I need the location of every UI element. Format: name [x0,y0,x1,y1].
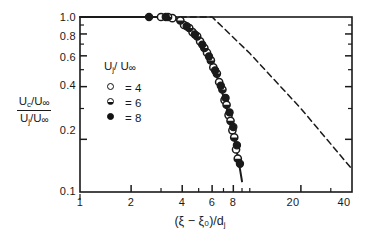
filled-circle-marker [191,31,198,38]
x-tick-label: 40 [334,196,354,208]
filled-circle-marker [145,13,152,20]
open-circle-marker-icon [106,82,120,93]
filled-circle-marker [183,23,190,30]
y-num-sub: c [27,100,31,109]
legend-title-mid: / U [114,60,129,72]
y-axis-label-numerator: Uc/U∞ [17,95,51,111]
y-den-sub: j [28,117,30,126]
filled-circle-marker [226,109,233,116]
legend-sep: = [125,97,132,109]
y-axis-label: Uc/U∞ Uj/U∞ [2,95,66,126]
legend-sep: = [125,112,132,124]
y-axis-label-denominator: Uj/U∞ [18,111,50,126]
filled-circle-marker [199,41,206,48]
legend-item-label: = 4 [125,82,141,94]
infinity-symbol: ∞ [129,62,136,73]
legend-item: = 8 [106,110,141,125]
infinity-symbol: ∞ [41,114,48,125]
filled-circle-marker [236,160,243,167]
legend-value: 4 [135,82,141,94]
x-tick-label: 1 [70,196,90,208]
filled-circle-marker [233,142,240,149]
legend-item-label: = 8 [125,112,141,124]
x-tick-label: 6 [202,196,222,208]
legend-title: Uj/ U∞ [104,60,141,74]
y-tick-label: 0.4 [44,79,76,91]
infinity-symbol: ∞ [43,97,50,108]
x-tick-label: 8 [223,196,243,208]
x-tick-label: 2 [121,196,141,208]
figure-root: 1.0 0.8 0.6 0.4 0.2 0.1 1 2 4 6 8 20 40 … [0,0,370,246]
filled-circle-marker [217,82,224,89]
y-num-uinf: U [34,95,42,107]
x-tick-label: 20 [283,196,303,208]
y-num-u: U [19,95,27,107]
x-axis-label-text: (ξ − ξ₀)/d [174,214,223,228]
half-circle-marker-icon [106,97,120,108]
y-tick-label: 0.6 [44,51,76,63]
y-tick-label: 0.8 [44,30,76,42]
filled-circle-marker [222,94,229,101]
legend-item: = 4 [106,80,141,95]
y-den-u: U [20,112,28,124]
legend-value: 6 [135,97,141,109]
filled-circle-marker [205,53,212,60]
x-axis-label: (ξ − ξ₀)/dj [120,214,280,229]
filled-circle-marker [212,67,219,74]
x-tick-label: 4 [172,196,192,208]
legend-sep: = [125,82,132,94]
legend-value: 8 [135,112,141,124]
y-tick-label: 1.0 [44,11,76,23]
filled-circle-marker [162,13,169,20]
filled-circle-marker [230,123,237,130]
filled-circle-marker-icon [106,112,120,123]
legend-item-label: = 6 [125,97,141,109]
legend-item: = 6 [106,95,141,110]
legend: Uj/ U∞ = 4 = 6 = 8 [104,60,141,125]
x-axis-label-sub: j [224,220,226,229]
